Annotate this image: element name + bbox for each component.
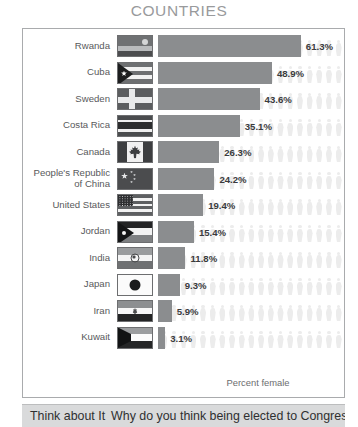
bar-zone: 43.6%: [158, 88, 345, 110]
bar-value-label: 11.8%: [190, 253, 217, 264]
bar: [158, 300, 172, 322]
page-title: COUNTRIES: [0, 2, 358, 20]
flag-icon-kuwait: [117, 327, 153, 349]
flag-icon-sweden: [117, 88, 153, 110]
bar: [158, 194, 203, 216]
flag-icon-usa: [117, 194, 153, 216]
chart-row: Costa Rica35.1%: [23, 113, 345, 139]
bar: [158, 115, 240, 137]
bar-zone: 15.4%: [158, 221, 345, 243]
country-label: People's Republic of China: [23, 168, 117, 190]
bar: [158, 88, 260, 110]
bar-value-label: 15.4%: [199, 226, 226, 237]
chart-row: Jordan15.4%: [23, 219, 345, 245]
x-axis-label: Percent female: [173, 377, 343, 388]
bar-zone: 26.3%: [158, 141, 345, 163]
country-label: Canada: [23, 147, 117, 158]
bar-value-label: 24.2%: [219, 173, 246, 184]
bar-zone: 48.9%: [158, 62, 345, 84]
country-label: Costa Rica: [23, 120, 117, 131]
country-label: Rwanda: [23, 41, 117, 52]
chart-row: Canada26.3%: [23, 139, 345, 165]
bar: [158, 327, 165, 349]
chart-frame: Rwanda61.3%Cuba48.9%Sweden43.6%Costa Ric…: [22, 28, 345, 398]
flag-icon-iran: [117, 300, 153, 322]
flag-icon-rwanda: [117, 35, 153, 57]
bar-value-label: 3.1%: [170, 332, 192, 343]
bar-zone: 24.2%: [158, 168, 345, 190]
country-label: Japan: [23, 279, 117, 290]
bar-value-label: 43.6%: [265, 94, 292, 105]
country-label: India: [23, 253, 117, 264]
footer-question-text: Why do you think being elected to Congre…: [111, 409, 345, 423]
bar-zone: 3.1%: [158, 327, 345, 349]
chart-row: India11.8%: [23, 245, 345, 271]
country-label: Sweden: [23, 94, 117, 105]
flag-icon-cuba: [117, 62, 153, 84]
chart-row: Sweden43.6%: [23, 86, 345, 112]
chart-row: Kuwait3.1%: [23, 325, 345, 351]
think-about-it-footer: Think about It Why do you think being el…: [22, 404, 345, 427]
bar-value-label: 5.9%: [177, 306, 199, 317]
country-label: Jordan: [23, 226, 117, 237]
chart-row: Cuba48.9%: [23, 60, 345, 86]
chart-row: People's Republic of China24.2%: [23, 166, 345, 192]
footer-lead-label: Think about It: [30, 409, 105, 423]
bar-zone: 5.9%: [158, 300, 345, 322]
country-label: Kuwait: [23, 332, 117, 343]
country-label: Cuba: [23, 67, 117, 78]
bar-zone: 35.1%: [158, 115, 345, 137]
bar: [158, 168, 214, 190]
plot-area: Rwanda61.3%Cuba48.9%Sweden43.6%Costa Ric…: [23, 29, 344, 397]
flag-detail-sun: [142, 39, 148, 45]
bar-value-label: 26.3%: [224, 147, 251, 158]
flag-icon-china: [117, 168, 153, 190]
bar: [158, 62, 272, 84]
chart-row: United States19.4%: [23, 192, 345, 218]
flag-icon-costarica: [117, 115, 153, 137]
bar: [158, 247, 185, 269]
bar-zone: 11.8%: [158, 247, 345, 269]
bar-value-label: 19.4%: [208, 200, 235, 211]
bar-zone: 61.3%: [158, 35, 345, 57]
bar-value-label: 48.9%: [277, 67, 304, 78]
bar-zone: 19.4%: [158, 194, 345, 216]
flag-icon-jordan: [117, 221, 153, 243]
bar: [158, 274, 180, 296]
flag-icon-canada: [117, 141, 153, 163]
chart-row: Japan9.3%: [23, 272, 345, 298]
bar-value-label: 61.3%: [306, 41, 333, 52]
bar: [158, 141, 219, 163]
bar-value-label: 9.3%: [185, 279, 207, 290]
chart-row: Rwanda61.3%: [23, 33, 345, 59]
chart-row: Iran5.9%: [23, 298, 345, 324]
bar: [158, 221, 194, 243]
bar-value-label: 35.1%: [245, 120, 272, 131]
country-label: Iran: [23, 306, 117, 317]
flag-icon-japan: [117, 274, 153, 296]
country-label: United States: [23, 200, 117, 211]
bar-zone: 9.3%: [158, 274, 345, 296]
flag-icon-india: [117, 247, 153, 269]
bar: [158, 35, 301, 57]
